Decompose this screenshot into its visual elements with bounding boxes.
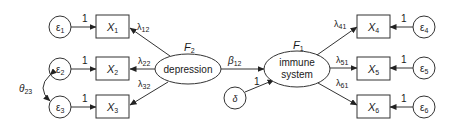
- path-label-e4: 1: [401, 13, 407, 24]
- loading-label-lambda32: λ32: [138, 79, 150, 90]
- latent-node-depression: depression F2: [155, 41, 221, 84]
- observed-node-x3: X3: [96, 95, 129, 118]
- sem-diagram: ε1 ε2 ε3 1 1 1 θ23 X1 X2 X3 λ12 λ22 λ32 …: [0, 0, 458, 126]
- disturbance-node-delta: δ: [224, 87, 246, 109]
- error-node-e1: ε1: [49, 16, 71, 38]
- svg-text:depression: depression: [164, 64, 213, 75]
- observed-node-x1: X1: [96, 15, 129, 38]
- observed-node-x2: X2: [96, 57, 129, 80]
- loading-label-lambda51: λ51: [336, 55, 348, 66]
- svg-text:system: system: [281, 69, 313, 80]
- error-node-e2: ε2: [49, 58, 71, 80]
- loading-label-lambda61: λ61: [336, 78, 348, 89]
- latent-node-immune-system: immune system F1: [264, 39, 330, 87]
- loading-label-lambda22: λ22: [138, 56, 150, 67]
- path-label-e3: 1: [82, 93, 88, 104]
- path-label-e1: 1: [82, 13, 88, 24]
- observed-node-x4: X4: [357, 15, 390, 38]
- loading-f2-x1: [130, 28, 170, 56]
- covariance-label-theta23: θ23: [19, 83, 32, 95]
- path-label-e2: 1: [82, 55, 88, 66]
- factor-label-f2: F2: [184, 41, 195, 54]
- observed-node-x5: X5: [357, 57, 390, 80]
- path-label-e5: 1: [401, 54, 407, 65]
- loading-f1-x4: [317, 27, 357, 55]
- error-node-e6: ε6: [413, 96, 435, 118]
- svg-text:immune: immune: [279, 57, 315, 68]
- covariance-e2-e3: [43, 75, 50, 101]
- path-label-delta: 1: [254, 76, 260, 87]
- loading-label-lambda12: λ12: [137, 22, 149, 33]
- error-node-e5: ε5: [413, 57, 435, 79]
- observed-node-x6: X6: [357, 95, 390, 118]
- error-node-e3: ε3: [49, 96, 71, 118]
- structural-label-beta12: β12: [227, 55, 242, 67]
- error-node-e4: ε4: [413, 16, 435, 38]
- loading-label-lambda41: λ41: [334, 19, 346, 30]
- path-label-e6: 1: [401, 93, 407, 104]
- factor-label-f1: F1: [293, 39, 304, 52]
